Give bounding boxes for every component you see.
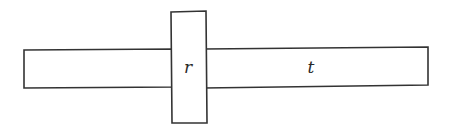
label-r: r [184, 57, 193, 77]
right-bar [204, 47, 428, 88]
left-bar [24, 49, 175, 88]
label-t: t [308, 57, 315, 77]
diagram-canvas: r t [0, 0, 450, 129]
